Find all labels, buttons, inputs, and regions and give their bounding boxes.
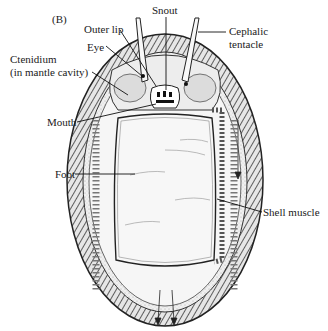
label-mouth: Mouth	[47, 116, 76, 128]
label-shell-muscle: Shell muscle	[263, 206, 320, 218]
panel-label: (B)	[52, 13, 67, 25]
label-eye: Eye	[87, 41, 104, 53]
label-cephalic-2: tentacle	[229, 38, 263, 50]
label-cephalic-1: Cephalic	[229, 25, 268, 37]
label-outer-lip: Outer lip	[84, 23, 123, 35]
mouth	[156, 91, 174, 103]
foot	[114, 114, 215, 266]
label-ctenidium-2: (in mantle cavity)	[10, 66, 88, 78]
chiton-illustration	[0, 0, 328, 331]
label-ctenidium-1: Ctenidium	[10, 53, 56, 65]
label-foot: Foot	[55, 168, 75, 180]
eye-right	[184, 82, 188, 86]
label-snout: Snout	[152, 4, 178, 16]
